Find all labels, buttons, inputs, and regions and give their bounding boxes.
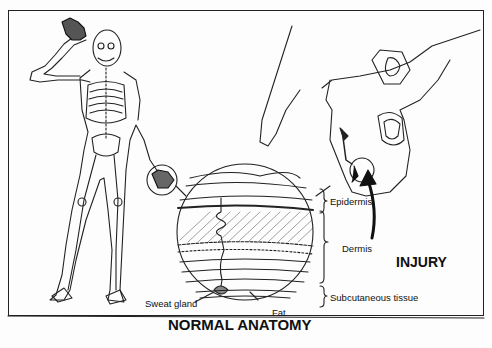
label-epidermis: Epidermis [330, 196, 372, 207]
layer-braces [320, 189, 328, 307]
label-sweat-gland: Sweat gland [145, 298, 197, 309]
skin-cross-section [177, 164, 313, 300]
injured-hand [260, 26, 480, 196]
skeleton-figure [30, 18, 158, 304]
label-dermis: Dermis [342, 243, 372, 254]
label-injury: INJURY [396, 254, 447, 270]
label-subcutaneous-tissue: Subcutaneous tissue [330, 292, 418, 303]
figure-title: NORMAL ANATOMY [168, 316, 312, 333]
injury-arrow [368, 180, 374, 238]
